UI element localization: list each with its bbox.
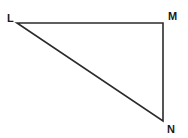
figure-background (0, 0, 188, 138)
geometry-figure: L M N (0, 0, 188, 138)
vertex-label-n: N (167, 124, 175, 135)
triangle-diagram (0, 0, 188, 138)
vertex-label-l: L (7, 13, 14, 24)
vertex-label-m: M (168, 11, 177, 22)
